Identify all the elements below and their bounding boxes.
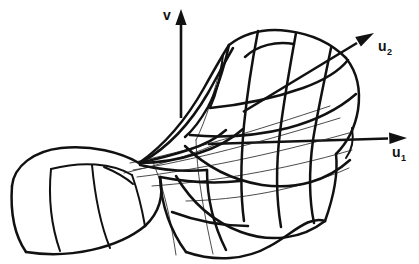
u2-axis-label: u [378,38,387,54]
v-axis-label: v [163,7,171,23]
figure-canvas: v u 1 u 2 [0,0,419,264]
u1-axis-label: u [392,144,401,160]
u2-axis-subscript: 2 [387,47,392,57]
catastrophe-surface-diagram: v u 1 u 2 [0,0,419,264]
background [0,0,419,264]
u1-axis-subscript: 1 [401,153,406,163]
